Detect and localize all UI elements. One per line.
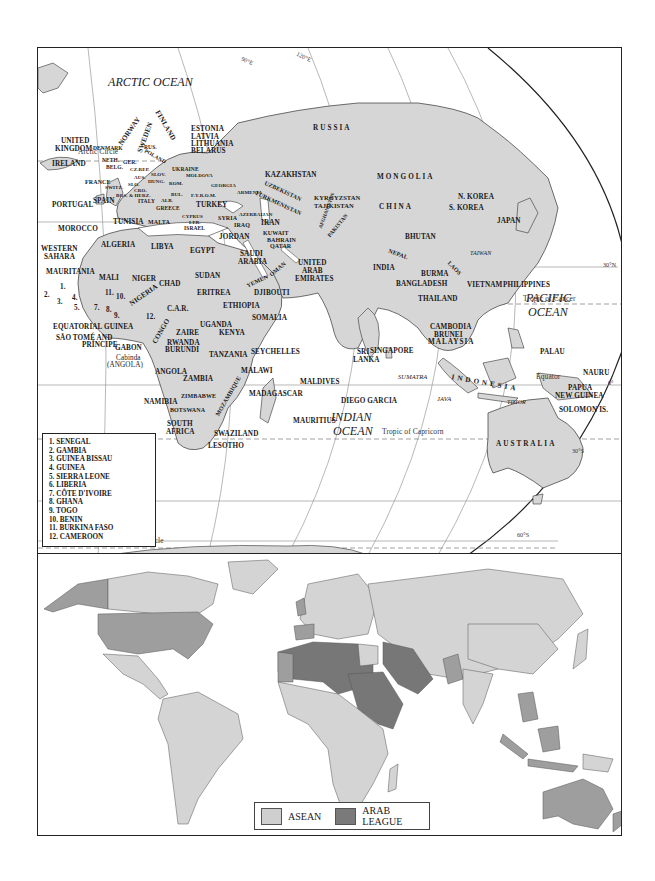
- label-bul: BUL.: [171, 192, 183, 197]
- label-n-korea: N. KOREA: [458, 194, 494, 202]
- label-sudan: SUDAN: [195, 273, 220, 281]
- label-moldova: MOLDOVA: [186, 173, 213, 178]
- coord-30n: 30°N: [603, 262, 616, 268]
- num-3: 3.: [57, 299, 63, 307]
- label-maldives: MALDIVES: [300, 379, 340, 387]
- label-portugal: PORTUGAL: [52, 202, 93, 210]
- label-mauritania: MAURITANIA: [46, 269, 95, 277]
- label-palau: PALAU: [540, 349, 565, 357]
- label-qatar: QATAR: [270, 243, 291, 249]
- label-equatorial-guinea: EQUATORIAL GUINEA: [53, 324, 133, 332]
- label-iran: IRAN: [261, 220, 280, 228]
- label-tajikistan: TAJIKISTAN: [314, 203, 354, 210]
- label-namibia: NAMIBIA: [144, 399, 177, 407]
- num-10: 10.: [116, 294, 125, 302]
- label-egypt: EGYPT: [190, 248, 215, 256]
- label-israel: ISRAEL: [184, 226, 205, 232]
- label-belarus: BELARUS: [191, 148, 226, 156]
- label-azerbaijan: AZERBAIJAN: [239, 212, 273, 217]
- label-south-africa-2: AFRICA: [166, 429, 195, 437]
- label-denmark: DENMARK: [93, 146, 123, 152]
- label-alb: ALB.: [161, 198, 173, 203]
- label-western-sahara-2: SAHARA: [44, 254, 75, 262]
- label-china: CHINA: [379, 204, 413, 212]
- key-item: 8. GHANA: [49, 498, 149, 507]
- equator-label: Equator: [536, 373, 560, 381]
- label-mongolia: MONGOLIA: [377, 174, 435, 182]
- top-political-map: ARCTIC OCEAN PACIFIC OCEAN INDIAN OCEAN …: [37, 47, 622, 554]
- label-malawi: MALAWI: [241, 368, 273, 376]
- label-ethiopia: ETHIOPIA: [223, 303, 260, 311]
- key-item: 11. BURKINA FASO: [49, 524, 149, 533]
- label-aus: AUS.: [134, 175, 146, 180]
- coord-60s: 60°S: [517, 532, 529, 538]
- label-syria: SYRIA: [218, 215, 237, 221]
- label-belg: BELG.: [106, 165, 123, 171]
- label-ukraine: UKRAINE: [172, 167, 199, 173]
- label-cz-rep: CZ.REP.: [130, 167, 150, 172]
- key-item: 9. TOGO: [49, 507, 149, 516]
- label-java: JAVA: [437, 396, 451, 403]
- label-neth: NETH.: [102, 158, 119, 164]
- country-number-key: 1. SENEGAL 2. GAMBIA 3. GUINEA BISSAU 4.…: [42, 433, 156, 547]
- bottom-membership-map: ASEAN ARAB LEAGUE: [37, 553, 622, 836]
- label-rus-kaliningrad: RUS.: [144, 145, 157, 151]
- label-madagascar: MADAGASCAR: [249, 391, 303, 399]
- ocean-label-arctic: ARCTIC OCEAN: [108, 76, 193, 89]
- label-taiwan: TAIWAN: [470, 250, 491, 256]
- label-philippines: PHILIPPINES: [503, 282, 550, 290]
- coord-0: 0°: [608, 380, 614, 386]
- label-hung: HUNG.: [148, 179, 165, 184]
- label-jordan: JORDAN: [219, 234, 250, 242]
- coord-30s: 30°S: [572, 448, 584, 454]
- label-solomon: SOLOMON IS.: [559, 407, 608, 415]
- label-tanzania: TANZANIA: [209, 352, 248, 360]
- label-zimbabwe: ZIMBABWE: [181, 393, 216, 399]
- legend-label-asean: ASEAN: [288, 811, 321, 822]
- label-burundi: BURUNDI: [165, 347, 199, 355]
- label-bhutan: BHUTAN: [405, 234, 436, 242]
- label-mali: MALI: [99, 275, 119, 283]
- label-kuwait: KUWAIT: [263, 230, 289, 236]
- num-7: 7.: [94, 305, 100, 313]
- label-nauru: NAURU: [583, 370, 609, 378]
- legend-label-arab-league: ARAB LEAGUE: [362, 805, 423, 827]
- label-swaziland: SWAZILAND: [214, 431, 258, 439]
- num-4: 4.: [72, 295, 78, 303]
- label-ireland: IRELAND: [52, 161, 86, 169]
- label-tunisia: TUNISIA: [113, 219, 144, 227]
- label-libya: LIBYA: [151, 244, 174, 252]
- label-sumatra: SUMATRA: [398, 374, 427, 381]
- num-11: 11.: [105, 290, 114, 298]
- key-item: 10. BENIN: [49, 516, 149, 525]
- num-2: 2.: [44, 292, 50, 300]
- num-9: 9.: [114, 313, 120, 321]
- tropic-of-cancer-label: Tropic of Cancer: [523, 295, 576, 303]
- key-item: 2. GAMBIA: [49, 447, 149, 456]
- ocean-label-pacific-2: OCEAN: [528, 306, 568, 319]
- label-saudi-2: ARABIA: [238, 259, 267, 267]
- label-uk-2: KINGDOM: [55, 146, 92, 154]
- num-8: 8.: [106, 307, 112, 315]
- label-singapore: SINGAPORE: [370, 348, 414, 356]
- label-kenya: KENYA: [219, 330, 245, 338]
- ocean-label-indian-1: INDIAN: [331, 411, 372, 424]
- legend-swatch-arab-league: [335, 808, 356, 825]
- label-japan: JAPAN: [497, 218, 521, 226]
- label-s-korea: S. KOREA: [449, 205, 484, 213]
- label-morocco: MOROCCO: [58, 226, 98, 234]
- label-djibouti: DJIBOUTI: [254, 290, 290, 298]
- label-slov: SLOV.: [151, 172, 166, 177]
- world-map-graphics: [38, 554, 622, 836]
- label-car: C.A.R.: [167, 306, 189, 314]
- label-malaysia: MALAYSIA: [428, 339, 474, 347]
- label-cyprus: CYPRUS: [182, 214, 203, 219]
- label-kyrgyzstan: KYRGYZSTAN: [314, 195, 360, 202]
- label-turkey: TURKEY: [196, 202, 227, 210]
- label-sri-lanka-2: LANKA: [353, 357, 379, 365]
- label-cabinda-2: (ANGOLA): [107, 362, 143, 370]
- label-botswana: BOTSWANA: [170, 407, 205, 413]
- label-seychelles: SEYCHELLES: [251, 349, 300, 357]
- label-chad: CHAD: [159, 281, 181, 289]
- tropic-of-capricorn-label: Tropic of Capricorn: [382, 428, 444, 436]
